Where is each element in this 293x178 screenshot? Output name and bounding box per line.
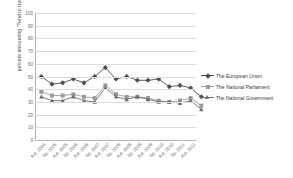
y-axis-tick-label: 100 (25, 11, 33, 16)
gridline (36, 13, 196, 14)
y-axis-tick-label: 90 (28, 23, 33, 28)
y-axis-tick-label: 60 (28, 61, 33, 66)
gridline (36, 64, 196, 65)
data-point-marker (50, 94, 54, 98)
gridline (36, 127, 196, 128)
data-point-marker (61, 94, 65, 98)
legend-item-european-union[interactable]: The European Union (201, 70, 273, 81)
y-axis-tick-label: 40 (28, 87, 33, 92)
legend-label-national-parliament: The National Parliament (216, 84, 270, 90)
legend-item-national-government[interactable]: The National Government (201, 92, 273, 103)
y-axis-tick-label: 0 (30, 138, 33, 143)
data-point-marker (81, 80, 86, 85)
gridline (36, 140, 196, 141)
legend-label-european-union: The European Union (216, 73, 262, 79)
gridline (36, 38, 196, 39)
data-point-marker (82, 95, 86, 99)
data-point-marker (39, 90, 43, 94)
series-line (41, 88, 201, 110)
data-point-marker (145, 78, 150, 83)
gridline (36, 115, 196, 116)
y-axis-tick-label: 50 (28, 74, 33, 79)
y-axis-tick-label: 10 (28, 125, 33, 130)
series-line (41, 68, 201, 97)
legend-label-national-government: The National Government (216, 95, 273, 101)
y-axis-tick-label: 30 (28, 99, 33, 104)
y-axis-title: percent answering "Tend to trust" (16, 0, 22, 88)
chart-legend: The European Union The National Parliame… (201, 70, 273, 103)
y-axis-tick-label: 70 (28, 49, 33, 54)
legend-item-national-parliament[interactable]: The National Parliament (201, 81, 273, 92)
chart-container: percent answering "Tend to trust" 010203… (0, 0, 293, 178)
y-axis-tick-label: 20 (28, 112, 33, 117)
y-axis-tick-label: 80 (28, 36, 33, 41)
gridline (36, 77, 196, 78)
plot-area: 0102030405060708090100Aut. 2004Sp. 2005A… (35, 13, 196, 141)
gridline (36, 89, 196, 90)
gridline (36, 102, 196, 103)
legend-marker-national-government (201, 94, 214, 101)
data-point-marker (135, 78, 140, 83)
legend-marker-european-union (201, 72, 214, 79)
gridline (36, 51, 196, 52)
data-point-marker (177, 83, 182, 88)
legend-marker-national-parliament (201, 83, 214, 90)
data-point-marker (39, 95, 43, 99)
data-point-marker (60, 80, 65, 85)
gridline (36, 26, 196, 27)
data-point-marker (199, 104, 203, 108)
